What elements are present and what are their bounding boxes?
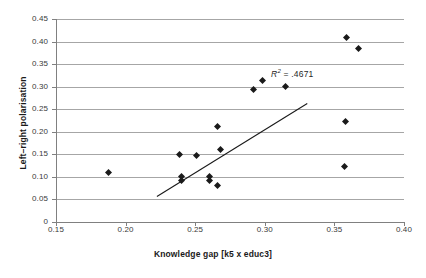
y-axis-title: Left–right polarisation xyxy=(18,53,28,193)
x-tick-label: 0.30 xyxy=(245,226,285,234)
gridline xyxy=(56,64,404,65)
y-tick-label: 0.10 xyxy=(8,173,48,181)
y-axis-line xyxy=(56,19,57,222)
data-point xyxy=(342,118,349,125)
data-point xyxy=(250,86,257,93)
data-point xyxy=(105,169,112,176)
data-point xyxy=(259,77,266,84)
data-point xyxy=(214,123,221,130)
data-point xyxy=(178,177,185,184)
gridline xyxy=(56,87,404,88)
y-tick-label: 0.20 xyxy=(8,128,48,136)
y-tick-label: 0.05 xyxy=(8,195,48,203)
y-tick-label: 0.15 xyxy=(8,150,48,158)
y-tick-mark xyxy=(52,19,56,20)
x-axis-line xyxy=(56,222,404,223)
r-squared-annotation: R2 = .4671 xyxy=(271,68,313,79)
y-tick-mark xyxy=(52,64,56,65)
x-tick-label: 0.15 xyxy=(36,226,76,234)
y-tick-label: 0 xyxy=(8,218,48,226)
y-tick-mark xyxy=(52,154,56,155)
r-squared-value: = .4671 xyxy=(281,69,314,79)
y-tick-label: 0.35 xyxy=(8,60,48,68)
data-point xyxy=(355,45,362,52)
y-tick-label: 0.45 xyxy=(8,15,48,23)
scatter-chart: 00.050.100.150.200.250.300.350.400.45 0.… xyxy=(0,0,426,278)
y-tick-mark xyxy=(52,42,56,43)
data-point xyxy=(217,146,224,153)
x-axis-title: Knowledge gap [k5 x educ3] xyxy=(0,249,426,259)
y-tick-label: 0.30 xyxy=(8,83,48,91)
gridline xyxy=(56,132,404,133)
data-point xyxy=(176,151,183,158)
gridline xyxy=(56,177,404,178)
y-tick-label: 0.40 xyxy=(8,38,48,46)
y-tick-mark xyxy=(52,109,56,110)
data-point xyxy=(343,34,350,41)
gridline xyxy=(56,19,404,20)
y-tick-mark xyxy=(52,177,56,178)
y-tick-mark xyxy=(52,87,56,88)
y-tick-label: 0.25 xyxy=(8,105,48,113)
y-tick-mark xyxy=(52,132,56,133)
data-point xyxy=(282,83,289,90)
plot-area xyxy=(56,19,404,222)
gridline xyxy=(56,109,404,110)
x-tick-label: 0.35 xyxy=(314,226,354,234)
gridline xyxy=(56,42,404,43)
data-point xyxy=(214,182,221,189)
data-point xyxy=(206,177,213,184)
x-tick-label: 0.40 xyxy=(384,226,424,234)
y-tick-mark xyxy=(52,199,56,200)
gridline xyxy=(56,199,404,200)
x-tick-label: 0.20 xyxy=(106,226,146,234)
data-point xyxy=(193,152,200,159)
data-point xyxy=(341,163,348,170)
gridline xyxy=(56,154,404,155)
x-tick-label: 0.25 xyxy=(175,226,215,234)
